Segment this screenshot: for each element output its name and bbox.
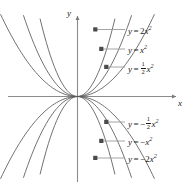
callout-b	[99, 47, 125, 51]
equals-sign: =	[134, 137, 139, 147]
equals-sign: =	[134, 64, 139, 74]
equation-lhs: y	[128, 154, 132, 164]
equation-label-neg-2x2: y=−2x2	[128, 153, 157, 164]
callout-f	[93, 156, 125, 160]
callout-c	[104, 65, 125, 69]
callout-e	[99, 139, 125, 143]
plot-canvas	[0, 0, 193, 188]
equation-lhs: y	[128, 26, 132, 36]
exponent: 2	[149, 24, 152, 31]
equals-sign: =	[134, 119, 139, 129]
exponent: 2	[155, 117, 158, 124]
parabola-family-figure: y x y=2x2 y=x2 y=12x2 y=−12x2 y=−x2 y=−2…	[0, 0, 193, 188]
x-axis-label: x	[178, 99, 182, 108]
equation-label-neg-x2: y=−x2	[128, 136, 152, 147]
equation-label-2x2: y=2x2	[128, 25, 152, 36]
equals-sign: =	[134, 26, 139, 36]
exponent: 2	[154, 152, 157, 159]
exponent: 2	[149, 135, 152, 142]
y-axis-label: y	[67, 9, 71, 18]
equals-sign: =	[134, 45, 139, 55]
equals-sign: =	[134, 154, 139, 164]
callout-group	[93, 27, 125, 160]
exponent: 2	[150, 62, 153, 69]
equation-label-half-x2: y=12x2	[128, 61, 153, 76]
equation-lhs: y	[128, 119, 132, 129]
equation-lhs: y	[128, 64, 132, 74]
minus-sign: −	[140, 119, 145, 129]
exponent: 2	[144, 43, 147, 50]
equation-lhs: y	[128, 137, 132, 147]
equation-label-neg-half-x2: y=−12x2	[128, 116, 159, 131]
callout-a	[93, 27, 125, 31]
equation-label-x2: y=x2	[128, 44, 147, 55]
equation-lhs: y	[128, 45, 132, 55]
